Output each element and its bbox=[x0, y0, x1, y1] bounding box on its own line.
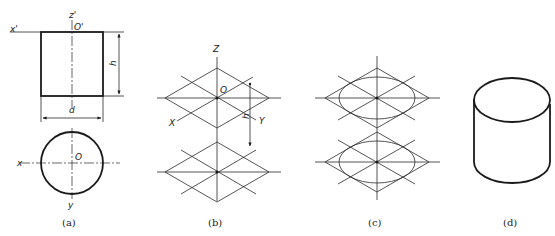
caption-c: (c) bbox=[368, 217, 382, 228]
cylinder-top-ellipse bbox=[474, 78, 550, 122]
label-diameter: d bbox=[69, 105, 75, 115]
figure-canvas: z' O' x' h d x O y (a) Z O X Y h (b) bbox=[0, 0, 555, 236]
caption-a: (a) bbox=[62, 217, 76, 228]
label-height: h bbox=[108, 60, 118, 66]
label-y: y bbox=[67, 200, 74, 210]
panel-c: (c) bbox=[315, 56, 440, 228]
label-x: x bbox=[16, 158, 23, 168]
label-z: Z bbox=[212, 44, 220, 54]
lower-center-point bbox=[216, 171, 219, 174]
upper-center-point bbox=[216, 97, 219, 100]
label-origin: O bbox=[75, 152, 82, 162]
lower-center-point bbox=[376, 161, 379, 164]
label-origin: O bbox=[220, 85, 227, 95]
label-origin-top: O' bbox=[74, 22, 84, 32]
panel-d: (d) bbox=[474, 78, 550, 228]
label-height: h bbox=[241, 113, 251, 119]
label-x: X bbox=[168, 118, 176, 128]
label-y: Y bbox=[259, 116, 266, 126]
upper-center-point bbox=[376, 97, 379, 100]
label-x-prime: x' bbox=[9, 24, 18, 34]
caption-d: (d) bbox=[503, 217, 517, 228]
caption-b: (b) bbox=[208, 217, 222, 228]
panel-b: Z O X Y h (b) bbox=[157, 44, 281, 228]
label-z-prime: z' bbox=[68, 10, 76, 20]
panel-a: z' O' x' h d x O y (a) bbox=[9, 10, 124, 228]
cylinder-bottom-edge bbox=[474, 162, 550, 183]
height-start-point bbox=[249, 83, 251, 85]
